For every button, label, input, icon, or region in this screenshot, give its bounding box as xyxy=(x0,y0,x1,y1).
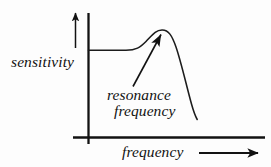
x-axis-label: frequency xyxy=(122,144,183,160)
annotation-line-1: resonance xyxy=(107,86,171,103)
resonance-figure: sensitivity frequency resonance frequenc… xyxy=(0,0,271,167)
annotation-line-2: frequency xyxy=(107,103,175,119)
y-axis-label: sensitivity xyxy=(11,54,74,70)
resonance-frequency-annotation: resonance frequency xyxy=(107,87,175,119)
pointer-arrow-icon xyxy=(133,35,161,87)
figure-canvas xyxy=(0,0,271,167)
